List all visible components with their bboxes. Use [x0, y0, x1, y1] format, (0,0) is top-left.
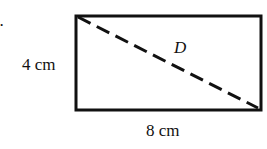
diagonal-label: D: [174, 39, 186, 56]
height-label: 4 cm: [22, 56, 56, 73]
width-label: 8 cm: [146, 122, 180, 139]
diagonal-dashed-line: [78, 17, 258, 108]
rectangle-diagram: [0, 0, 267, 149]
